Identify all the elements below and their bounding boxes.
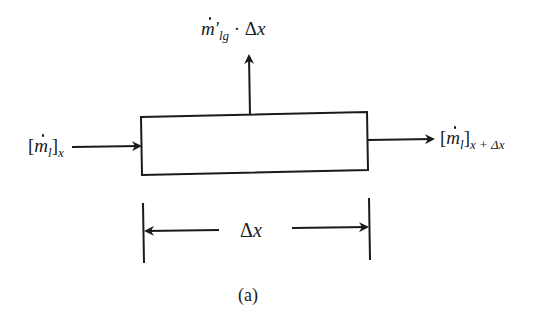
subscript-x-plus-dx: x + Δx [470,137,504,152]
subscript-x: x [58,145,64,160]
inflow-label: [ml]x [28,136,64,155]
subscript-l: l [460,137,464,152]
outflow-label: [ml]x + Δx [440,128,504,147]
mass-rate-symbol: m [446,128,460,147]
subscript-lg: lg [219,28,229,43]
length-label: Δx [240,220,262,240]
dimension-arrow-left [146,230,219,231]
mass-rate-symbol: m [34,136,48,155]
delta-symbol: Δ [240,219,253,241]
dimension-tick-right [369,198,370,260]
control-volume-box [141,112,368,175]
inflow-arrow [72,146,140,147]
outflow-arrow [368,139,433,140]
dimension-tick-left [143,203,144,263]
variable-x: x [253,219,262,241]
diagram-canvas [0,0,548,326]
dimension-arrow-right [292,227,367,228]
subscript-l: l [48,145,52,160]
mass-rate-symbol: m [201,19,215,38]
times-delta: · Δ [229,18,257,39]
variable-x: x [257,18,265,39]
evaporation-flux-arrow [249,56,250,115]
evaporation-flux-label: m′lg · Δx [201,19,266,38]
figure-caption: (a) [238,286,258,304]
